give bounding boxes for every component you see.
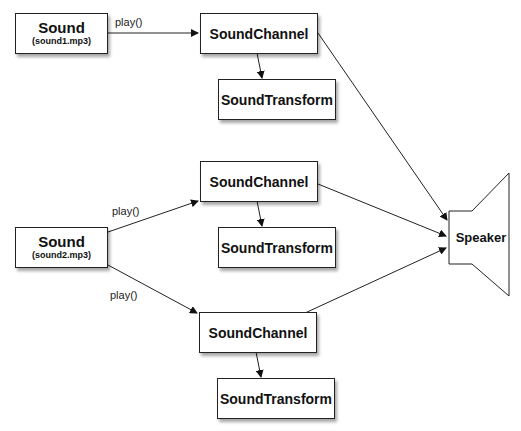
channel3-label: SoundChannel [209, 325, 308, 341]
channel2-label: SoundChannel [210, 174, 309, 190]
channel2-node: SoundChannel [200, 161, 318, 202]
transform2-node: SoundTransform [218, 227, 336, 268]
transform1-label: SoundTransform [221, 92, 333, 108]
transform3-label: SoundTransform [220, 391, 332, 407]
sound1-node: Sound (sound1.mp3) [15, 13, 108, 54]
channel1-label: SoundChannel [210, 26, 309, 42]
sound1-title: Sound [38, 20, 85, 36]
connector-layer [0, 0, 521, 431]
channel3-node: SoundChannel [199, 312, 317, 353]
edge-label-play-1: play() [115, 16, 143, 28]
edge-label-play-3: play() [110, 289, 138, 301]
sound1-file: (sound1.mp3) [32, 36, 91, 47]
sound2-file: (sound2.mp3) [32, 250, 91, 261]
arrow-channel1-transform1 [257, 53, 262, 78]
speaker-label: Speaker [452, 230, 510, 245]
transform2-label: SoundTransform [221, 240, 333, 256]
transform3-node: SoundTransform [217, 378, 335, 419]
transform1-node: SoundTransform [218, 79, 336, 120]
edge-label-play-2: play() [112, 205, 140, 217]
sound2-node: Sound (sound2.mp3) [15, 227, 108, 268]
arrow-channel2-speaker [318, 184, 446, 236]
arrow-channel2-transform2 [257, 201, 262, 226]
arrow-channel3-transform3 [256, 352, 261, 377]
channel1-node: SoundChannel [200, 13, 318, 54]
sound2-title: Sound [38, 234, 85, 250]
